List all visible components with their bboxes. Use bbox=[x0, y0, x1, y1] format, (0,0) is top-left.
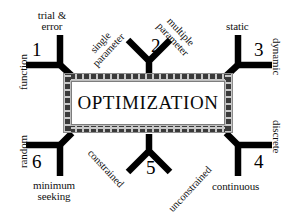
branch-4-arms bbox=[226, 133, 272, 176]
branch-1-label-line2: error bbox=[24, 21, 80, 32]
branch-6-label-random: random bbox=[18, 135, 29, 168]
branch-3-arms bbox=[226, 35, 272, 76]
branch-3-number: 3 bbox=[254, 40, 264, 59]
branch-2-arms bbox=[128, 40, 170, 75]
branch-3-label-dynamic: dynamic bbox=[271, 38, 282, 75]
branch-4-label-discrete: discrete bbox=[271, 120, 282, 153]
page-title: OPTIMIZATION bbox=[63, 92, 233, 114]
branch-2-number: 2 bbox=[151, 36, 161, 55]
branch-1-number: 1 bbox=[32, 40, 42, 59]
branch-6-label-line2: seeking bbox=[18, 191, 90, 202]
branch-4-label-continuous: continuous bbox=[212, 181, 259, 192]
branch-6-label-minimum-seeking: minimum seeking bbox=[18, 180, 90, 203]
branch-6-number: 6 bbox=[32, 152, 42, 171]
branch-4-number: 4 bbox=[254, 152, 264, 171]
branch-1-label-trial-error: trial & error bbox=[24, 10, 80, 33]
branch-5-number: 5 bbox=[146, 158, 156, 177]
optimization-diagram: OPTIMIZATION trial & error function 1 si… bbox=[0, 0, 297, 213]
branch-3-label-static: static bbox=[226, 21, 249, 32]
branch-1-label-function: function bbox=[18, 54, 29, 90]
